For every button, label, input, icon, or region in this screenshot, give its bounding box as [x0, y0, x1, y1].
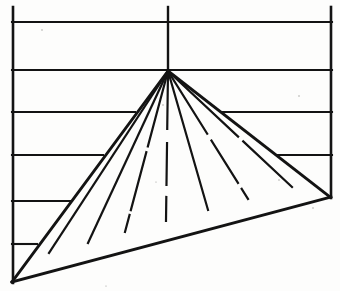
speckle	[162, 104, 163, 105]
speckle	[298, 95, 299, 96]
paper-background	[0, 0, 340, 291]
speckle	[105, 285, 106, 286]
speckle	[312, 207, 313, 208]
speckle	[278, 179, 279, 180]
speckle	[155, 181, 156, 182]
speckle	[41, 29, 42, 30]
figure-canvas: Triangle fan over horizontal grid	[0, 0, 340, 291]
line-diagram	[0, 0, 340, 291]
